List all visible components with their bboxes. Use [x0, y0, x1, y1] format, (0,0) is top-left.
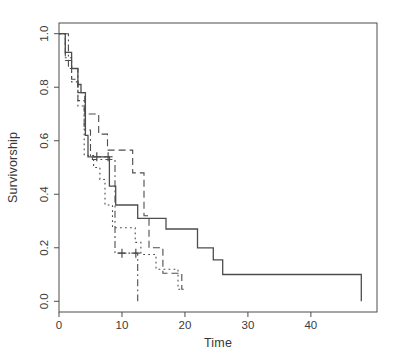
y-tick-label: 0.2 [38, 240, 50, 256]
y-tick-label: 0.0 [38, 293, 50, 309]
survival-curve-group-4 [59, 34, 138, 302]
x-tick-label: 40 [304, 319, 317, 331]
y-tick-label: 1.0 [38, 26, 50, 42]
x-tick-label: 30 [242, 319, 255, 331]
survival-curve-group-3 [59, 34, 181, 290]
y-tick-label: 0.8 [38, 79, 50, 95]
y-tick-label: 0.4 [38, 186, 50, 203]
y-axis-title: Survivorship [6, 23, 20, 312]
x-tick-label: 0 [56, 319, 62, 331]
survival-curve-group-1 [59, 34, 361, 302]
y-tick-label: 0.6 [38, 133, 50, 149]
x-tick-label: 20 [179, 319, 192, 331]
x-tick-label: 10 [116, 319, 129, 331]
survival-plot-figure: 0102030400.00.20.40.60.81.0 Time Survivo… [0, 0, 397, 358]
plot-canvas: 0102030400.00.20.40.60.81.0 [0, 0, 397, 358]
plot-box [59, 23, 377, 312]
x-axis-title: Time [59, 336, 377, 350]
